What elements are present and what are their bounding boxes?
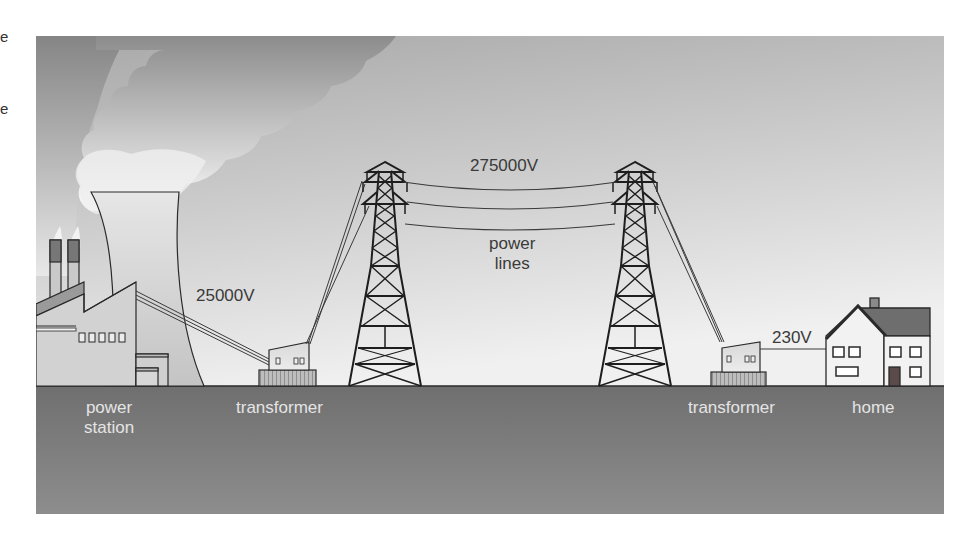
power-lines-label: power lines <box>489 234 535 274</box>
margin-text-fragment: e <box>0 28 8 45</box>
power-transmission-diagram: 25000V 275000V power lines 230V power st… <box>36 36 944 514</box>
power-station-label-line1: power <box>84 398 134 418</box>
voltage-label-transmission: 275000V <box>470 156 538 176</box>
power-lines-label-line2: lines <box>489 254 535 274</box>
power-lines-label-line1: power <box>489 234 535 254</box>
power-station-label: power station <box>84 398 134 438</box>
power-station-label-line2: station <box>84 418 134 438</box>
voltage-label-domestic: 230V <box>772 328 812 348</box>
door <box>889 367 900 386</box>
home-label: home <box>852 398 895 418</box>
ground <box>36 386 944 514</box>
voltage-label-generation: 25000V <box>196 286 255 306</box>
transformer-step-down-label: transformer <box>688 398 775 418</box>
margin-text-fragment: e <box>0 100 8 117</box>
transformer-step-up-label: transformer <box>236 398 323 418</box>
chimney <box>870 298 879 308</box>
